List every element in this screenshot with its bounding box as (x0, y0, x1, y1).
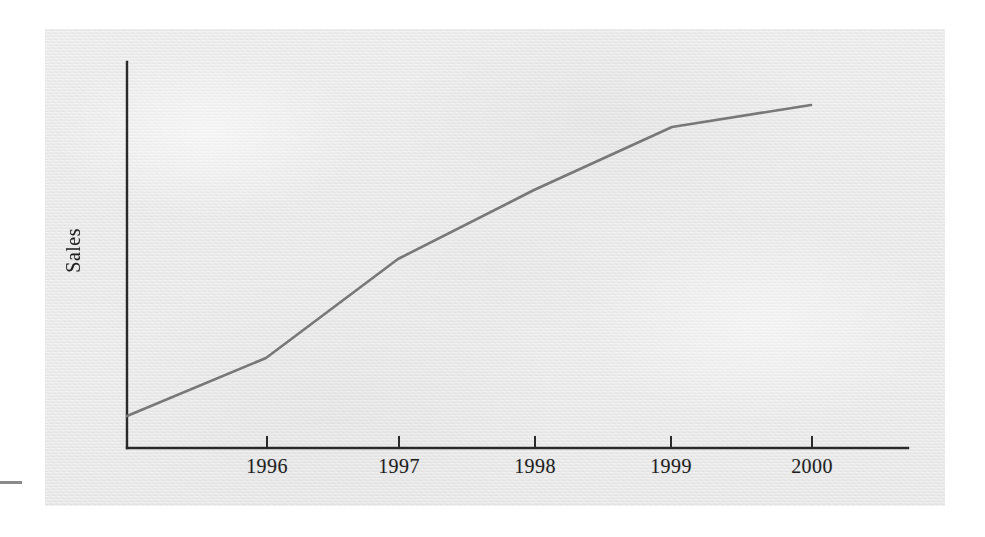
x-tick-label-1997: 1997 (378, 455, 420, 478)
screenshot-root: Sales 1996 1997 1998 1999 2000 (0, 0, 985, 537)
x-tick-label-1996: 1996 (246, 455, 288, 478)
chart-svg (0, 0, 985, 537)
x-tick-label-1999: 1999 (650, 455, 692, 478)
x-tick-label-2000: 2000 (791, 455, 833, 478)
y-axis-title: Sales (62, 228, 102, 273)
line-chart (0, 0, 985, 537)
x-tick-label-1998: 1998 (514, 455, 556, 478)
sales-data-line (127, 105, 811, 416)
